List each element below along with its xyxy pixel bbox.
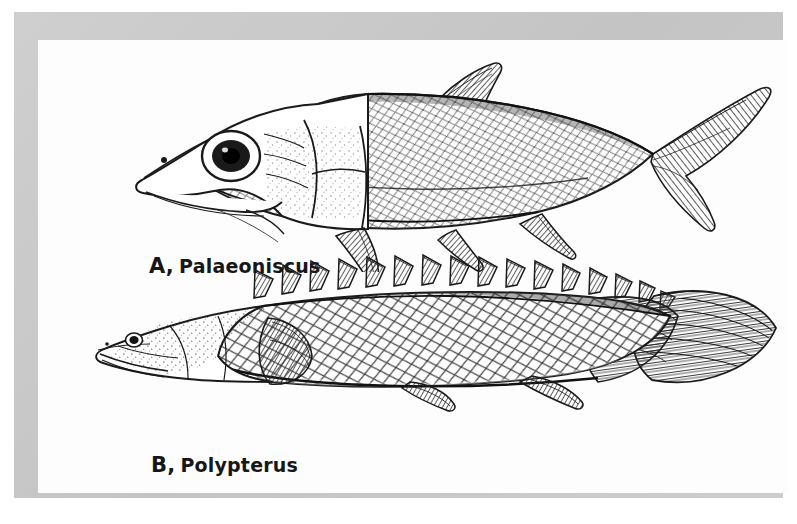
fish-a-eye	[202, 131, 260, 181]
figure-b-name: Polypterus	[180, 454, 298, 476]
figure-b-caption: B,Polypterus	[151, 453, 298, 477]
fish-a-caudal-fin	[651, 88, 771, 231]
figure-b-letter: B,	[151, 453, 175, 477]
illustration-field: A,Palaeoniscus	[38, 40, 788, 493]
fish-b-drawing	[96, 255, 776, 411]
plate-frame-border: A,Palaeoniscus	[14, 12, 783, 498]
fish-a-head	[136, 94, 368, 242]
fish-b-eye	[126, 333, 143, 347]
figure-b-polypterus	[58, 240, 788, 430]
illustration-plate: A,Palaeoniscus	[0, 0, 797, 524]
figure-a-palaeoniscus	[68, 50, 788, 272]
